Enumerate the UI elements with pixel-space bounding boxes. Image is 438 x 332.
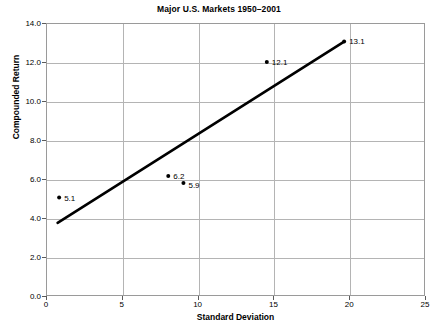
y-axis-tick-label: 8.0 — [0, 136, 41, 145]
y-axis-tick-label: 2.0 — [0, 253, 41, 262]
x-axis-tick-label: 15 — [258, 300, 288, 309]
x-axis-title: Standard Deviation — [46, 312, 425, 322]
data-point-marker — [181, 181, 185, 185]
chart-title: Major U.S. Markets 1950–2001 — [0, 4, 438, 14]
data-point-marker — [265, 60, 269, 64]
data-point-label: 6.2 — [173, 172, 184, 181]
data-point-label: 5.1 — [64, 193, 75, 202]
trend-line — [58, 42, 345, 223]
y-axis-tick-label: 6.0 — [0, 175, 41, 184]
y-axis-tick-label: 4.0 — [0, 214, 41, 223]
y-axis-tick-label: 10.0 — [0, 97, 41, 106]
x-axis-tick-label: 10 — [183, 300, 213, 309]
data-point-marker — [57, 196, 61, 200]
data-point-label: 13.1 — [349, 36, 365, 45]
x-axis-tick-label: 25 — [410, 300, 438, 309]
x-axis-tick-label: 20 — [334, 300, 364, 309]
data-point-label: 12.1 — [272, 58, 288, 67]
data-point-marker — [166, 174, 170, 178]
data-point-marker — [342, 40, 346, 44]
y-axis-tick-label: 14.0 — [0, 19, 41, 28]
plot-area: 5.16.25.912.113.1 — [46, 23, 425, 296]
x-axis-tick-label: 0 — [31, 300, 61, 309]
chart-container: Major U.S. Markets 1950–2001 Compounded … — [0, 0, 438, 332]
x-axis-tick-label: 5 — [107, 300, 137, 309]
data-point-label: 5.9 — [188, 180, 199, 189]
y-axis-tick-label: 12.0 — [0, 58, 41, 67]
data-layer — [47, 24, 426, 297]
series-group — [57, 40, 346, 223]
